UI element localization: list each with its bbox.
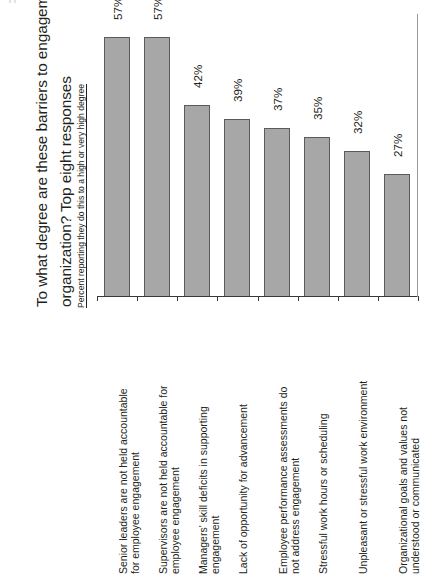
category-label-slot: Stressful work hours or scheduling [297,302,337,576]
category-label-line-1: Lack of opportunity for advancement [237,404,249,574]
bar-value-label: 32% [351,111,364,134]
bar-slot: 27% [377,14,417,297]
bar-value-label: 57% [151,0,164,20]
bar-chart-figure: To what degree are these barriers to eng… [0,0,430,578]
bar-slot: 32% [337,14,377,297]
category-label: Lack of opportunity for advancement [237,302,249,574]
plot-area: 57%57%42%39%37%35%32%27% [97,14,417,297]
bar-value-label: 37% [271,88,284,111]
bar[interactable] [344,151,370,297]
chart-title: To what degree are these barriers to eng… [12,0,68,320]
bar-slot: 57% [137,14,177,297]
chart-subtitle: Percent reporting they do this to a high… [76,84,86,308]
category-axis-labels: Senior leaders are not held accountablef… [97,302,417,576]
bar-slot: 37% [257,14,297,297]
category-label-slot: Managers' skill deficits in supportingen… [177,302,217,576]
category-label-slot: Supervisors are not held accountable for… [137,302,177,576]
bar[interactable] [144,37,170,297]
axis-tick [338,296,339,301]
bar-value-label: 42% [191,65,204,88]
category-label-line-1: Organizational goals and values not [397,407,409,574]
category-label-slot: Employee performance assessments donot a… [257,302,297,576]
category-label-line-1: Senior leaders are not held accountable [117,388,129,574]
axis-tick [258,296,259,301]
bar[interactable] [304,137,330,297]
bar-value-label: 27% [391,134,404,157]
category-label-slot: Organizational goals and values notunder… [377,302,417,576]
axis-tick [378,296,379,301]
bar[interactable] [104,37,130,297]
bar-value-label: 57% [111,0,124,20]
category-label-slot: Lack of opportunity for advancement [217,302,257,576]
category-label: Stressful work hours or scheduling [317,302,329,574]
category-label-line-2: understood or communicated [409,302,421,574]
category-label-line-1: Supervisors are not held accountable for [157,385,169,574]
axis-tick [217,296,218,301]
chart-title-line-2: organization? Top eight responses [57,76,75,307]
bar-slot: 57% [97,14,137,297]
category-label-slot: Senior leaders are not held accountablef… [97,302,137,576]
axis-tick [298,296,299,301]
axis-tick [418,296,419,301]
bar[interactable] [384,174,410,297]
chart-title-line-1: To what degree are these barriers to eng… [33,0,51,307]
bar[interactable] [264,128,290,297]
bar-value-label: 35% [311,97,324,120]
bar[interactable] [224,119,250,297]
category-label-line-1: Unpleasant or stressful work environment [357,381,369,574]
category-label: Organizational goals and values notunder… [397,302,422,574]
right-axis-line [417,14,418,297]
bar[interactable] [184,105,210,297]
bar-series: 57%57%42%39%37%35%32%27% [97,14,417,297]
bar-slot: 42% [177,14,217,297]
axis-tick [97,296,98,301]
bar-slot: 35% [297,14,337,297]
category-label-slot: Unpleasant or stressful work environment [337,302,377,576]
category-label-line-1: Managers' skill deficits in supporting [197,406,209,574]
axis-tick [177,296,178,301]
category-label-line-1: Employee performance assessments do [277,387,289,574]
bar-value-label: 39% [231,79,244,102]
bar-slot: 39% [217,14,257,297]
axis-tick [137,296,138,301]
category-label: Unpleasant or stressful work environment [357,302,369,574]
category-label-line-1: Stressful work hours or scheduling [317,414,329,575]
